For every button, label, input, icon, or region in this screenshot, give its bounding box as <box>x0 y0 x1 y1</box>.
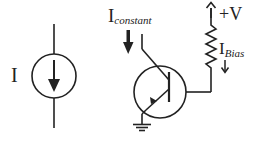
up-arrow-icon <box>207 3 216 9</box>
transistor-envelope <box>134 66 186 118</box>
bias-current-label: IBias <box>219 40 244 57</box>
bias-current-label-sub: Bias <box>225 47 245 59</box>
constant-current-label: Iconstant <box>108 6 152 25</box>
bold-down-arrow-icon <box>123 42 134 54</box>
bias-current-arrow <box>222 60 229 73</box>
down-arrow-icon <box>48 79 60 92</box>
source-label: I <box>11 65 18 85</box>
constant-current-arrow <box>123 30 134 54</box>
emitter-diagonal <box>146 89 169 110</box>
current-source-symbol <box>32 24 76 128</box>
npn-transistor <box>134 34 211 124</box>
supply-arrow <box>207 3 216 19</box>
supply-voltage-label: +V <box>219 5 242 23</box>
ground-symbol <box>133 125 151 131</box>
bias-current-label-main: I <box>219 39 225 58</box>
collector-diagonal <box>142 49 169 80</box>
constant-current-label-sub: constant <box>114 14 151 26</box>
